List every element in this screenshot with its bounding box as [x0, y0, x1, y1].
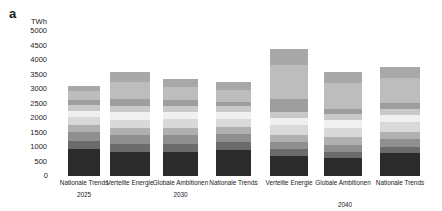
bar-segment: [324, 128, 362, 138]
bar-segment: [216, 134, 251, 142]
bar-segment: [380, 122, 420, 131]
bar-segment: [270, 125, 308, 135]
bar-segment: [270, 142, 308, 149]
bar-segment: [163, 119, 198, 128]
y-axis-tick-label: 1500: [30, 129, 47, 137]
bar-segment: [110, 144, 150, 152]
bar-segment: [216, 119, 251, 127]
bar-segment: [324, 137, 362, 144]
bar-segment: [324, 120, 362, 128]
y-axis-tick-label: 2500: [30, 100, 47, 108]
bar-segment: [68, 141, 100, 149]
bar-segment: [110, 128, 150, 135]
bar-segment: [110, 135, 150, 144]
bar-segment: [68, 132, 100, 142]
figure-panel-a: a TWh 0500100015002000250030003500400045…: [0, 0, 442, 211]
bar-segment: [68, 117, 100, 125]
stacked-bar[interactable]: [270, 48, 308, 176]
bar-segment: [163, 79, 198, 87]
stacked-bar[interactable]: [380, 67, 420, 176]
x-axis-year-label: 2030: [110, 192, 251, 198]
bar-segment: [216, 112, 251, 119]
bar-segment: [216, 142, 251, 150]
x-axis-year-label: 2040: [270, 202, 420, 208]
bar-segment: [324, 83, 362, 109]
bar-segment: [68, 91, 100, 101]
bar-segment: [110, 82, 150, 99]
bar-segment: [270, 135, 308, 142]
y-axis-tick-label: 1000: [30, 143, 47, 151]
bar-segment: [380, 115, 420, 123]
bar-segment: [380, 153, 420, 176]
bar-segment: [68, 149, 100, 176]
x-axis-year-label: 2025: [68, 192, 100, 198]
stacked-bar[interactable]: [110, 72, 150, 176]
stacked-bar[interactable]: [216, 82, 251, 176]
bar-segment: [380, 132, 420, 139]
y-axis-tick-label: 5000: [30, 27, 47, 35]
bar-segment: [68, 125, 100, 132]
x-axis-category-label: Nationale Trends: [364, 179, 436, 187]
bar-segment: [270, 99, 308, 111]
bar-segment: [324, 158, 362, 176]
bar-segment: [110, 112, 150, 120]
bar-segment: [110, 152, 150, 176]
bar-segment: [216, 150, 251, 176]
y-axis-tick-label: 500: [34, 158, 47, 166]
stacked-bar[interactable]: [163, 79, 198, 176]
bar-segment: [110, 120, 150, 129]
y-axis-tick-label: 0: [44, 172, 48, 180]
bar-segment: [324, 145, 362, 153]
bar-segment: [163, 112, 198, 119]
bar-segment: [110, 99, 150, 106]
stacked-bar[interactable]: [324, 72, 362, 176]
bar-segment: [270, 49, 308, 66]
bar-segment: [163, 152, 198, 176]
bar-segment: [110, 72, 150, 82]
plot-area: Nationale TrendsVerteilte EnergieGlobale…: [58, 0, 442, 211]
bar-segment: [163, 144, 198, 153]
bar-segment: [216, 82, 251, 90]
bar-segment: [270, 118, 308, 126]
bar-segment: [163, 135, 198, 144]
bar-segment: [380, 67, 420, 77]
y-axis-tick-label: 3000: [30, 85, 47, 93]
bar-segment: [380, 78, 420, 104]
bar-segment: [163, 128, 198, 135]
bar-segment: [216, 127, 251, 134]
y-axis: 0500100015002000250030003500400045005000: [0, 0, 56, 211]
y-axis-tick-label: 4500: [30, 42, 47, 50]
bar-segment: [163, 87, 198, 100]
bar-segment: [324, 72, 362, 83]
bar-segment: [380, 147, 420, 154]
bar-segment: [270, 156, 308, 176]
y-axis-tick-label: 4000: [30, 56, 47, 64]
y-axis-tick-label: 2000: [30, 114, 47, 122]
bar-segment: [270, 65, 308, 99]
bar-segment: [380, 139, 420, 147]
stacked-bar[interactable]: [68, 86, 100, 176]
y-axis-tick-label: 3500: [30, 71, 47, 79]
bar-segment: [216, 90, 251, 102]
